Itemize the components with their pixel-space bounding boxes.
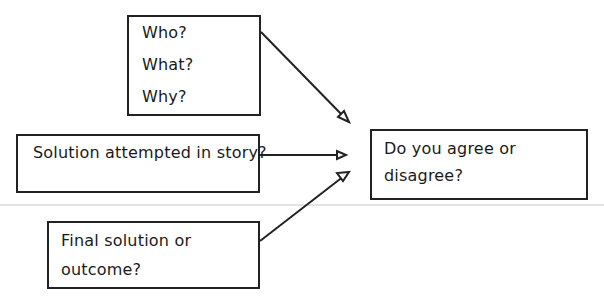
arrows-layer	[0, 0, 604, 300]
arrow-questions-to-opinion	[261, 32, 345, 118]
arrow-final-to-opinion	[260, 176, 344, 241]
arrowhead-icon	[337, 151, 346, 159]
